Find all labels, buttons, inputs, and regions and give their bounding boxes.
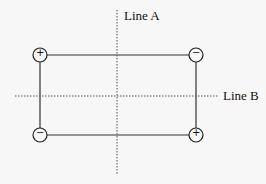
charge-bottom-right-sign: + (192, 127, 200, 138)
charge-top-right-sign: − (192, 47, 200, 58)
charge-top-left-sign: + (36, 47, 44, 58)
diagram-canvas: Line A Line B + − − + (0, 0, 266, 184)
rectangle-wire (40, 55, 196, 135)
line-b-label: Line B (223, 88, 259, 104)
charge-bottom-left-sign: − (36, 127, 44, 138)
line-a-label: Line A (124, 8, 160, 24)
